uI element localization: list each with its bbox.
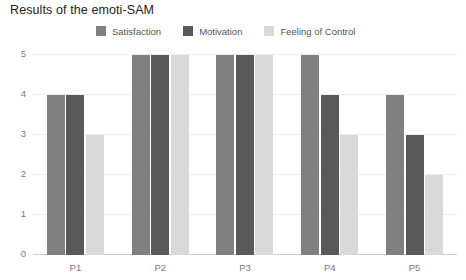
bar[interactable]	[171, 55, 189, 255]
legend-label: Satisfaction	[112, 26, 161, 37]
x-axis-tick-label: P2	[118, 262, 203, 273]
bar-group: P4	[287, 55, 372, 255]
y-axis-tick-label: 3	[21, 129, 26, 139]
y-axis-tick-label: 1	[21, 209, 26, 219]
y-axis-tick-label: 4	[21, 89, 26, 99]
bar[interactable]	[151, 55, 169, 255]
bar[interactable]	[86, 135, 104, 255]
legend-item[interactable]: Motivation	[183, 26, 242, 37]
legend-label: Feeling of Control	[280, 26, 355, 37]
bar[interactable]	[66, 95, 84, 255]
bar[interactable]	[255, 55, 273, 255]
x-axis-tick-label: P3	[203, 262, 288, 273]
bar[interactable]	[301, 55, 319, 255]
legend-swatch-icon	[183, 26, 193, 36]
legend-item[interactable]: Feeling of Control	[264, 26, 355, 37]
bar[interactable]	[216, 55, 234, 255]
x-axis-tick-label: P1	[33, 262, 118, 273]
bar-group: P3	[203, 55, 288, 255]
bar[interactable]	[236, 55, 254, 255]
legend-swatch-icon	[96, 26, 106, 36]
bar-group: P2	[118, 55, 203, 255]
bar[interactable]	[386, 95, 404, 255]
bar[interactable]	[406, 135, 424, 255]
bar[interactable]	[425, 175, 443, 255]
bar-group: P5	[372, 55, 457, 255]
bar-group: P1	[33, 55, 118, 255]
bars	[118, 55, 203, 255]
legend-item[interactable]: Satisfaction	[96, 26, 161, 37]
bars	[287, 55, 372, 255]
bar[interactable]	[132, 55, 150, 255]
chart-title: Results of the emoti-SAM	[10, 3, 154, 17]
bar[interactable]	[47, 95, 65, 255]
legend-label: Motivation	[199, 26, 242, 37]
legend-swatch-icon	[264, 26, 274, 36]
x-axis-tick-label: P5	[372, 262, 457, 273]
x-axis-tick-label: P4	[287, 262, 372, 273]
bar[interactable]	[321, 95, 339, 255]
bar-groups: P1P2P3P4P5	[33, 55, 457, 255]
plot-area: 012345 P1P2P3P4P5	[33, 55, 457, 255]
bars	[203, 55, 288, 255]
y-axis-tick-label: 2	[21, 169, 26, 179]
bars	[33, 55, 118, 255]
bar[interactable]	[340, 135, 358, 255]
bars	[372, 55, 457, 255]
chart-container: Results of the emoti-SAM SatisfactionMot…	[0, 0, 466, 280]
chart-legend: SatisfactionMotivationFeeling of Control	[96, 24, 355, 38]
y-axis-tick-label: 0	[21, 249, 26, 259]
y-axis-tick-label: 5	[21, 49, 26, 59]
